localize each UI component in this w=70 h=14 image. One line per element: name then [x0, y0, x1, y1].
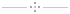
divider-line-right — [43, 7, 68, 8]
ornament-dot-left — [30, 6, 32, 8]
ornamental-divider — [0, 0, 70, 14]
ornament-dot-top — [34, 2, 36, 4]
ornament-dot-right — [38, 6, 40, 8]
ornament-dot-center — [34, 6, 36, 8]
ornament-dot-bottom — [34, 10, 36, 12]
divider-line-left — [2, 7, 27, 8]
